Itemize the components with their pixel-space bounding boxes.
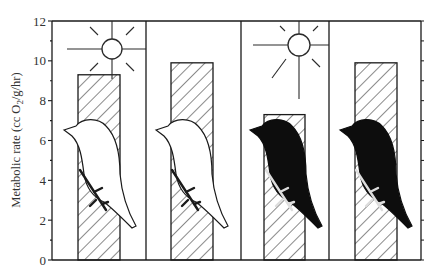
y-tick-label: 10: [33, 53, 46, 68]
y-tick-label: 0: [40, 253, 47, 268]
y-tick-label: 12: [33, 14, 46, 29]
sun-icon: [253, 21, 329, 99]
y-tick-label: 2: [40, 213, 47, 228]
y-tick-label: 4: [40, 173, 47, 188]
y-axis-tick-labels: 024681012: [33, 14, 47, 268]
y-tick-label: 8: [40, 93, 47, 108]
y-tick-label: 6: [40, 133, 47, 148]
y-axis-label: Metabolic rate (cc O2/g/hr): [9, 72, 25, 207]
sun-icon: [67, 21, 146, 79]
metabolic-rate-bar-chart: 024681012 Metabolic rate (cc O2/g/hr): [0, 0, 443, 275]
bars: [78, 63, 397, 260]
